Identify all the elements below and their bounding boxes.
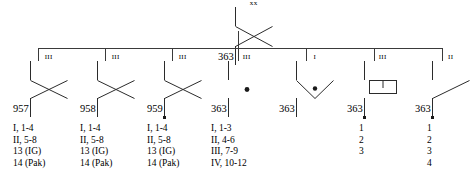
unit-363-engineer[interactable]: 363 I — [279, 62, 334, 117]
list-item: I, 1-3 — [211, 123, 247, 135]
unit-363-signals-echelon-label: III — [364, 54, 402, 61]
list-item: 14 (Pak) — [13, 158, 45, 170]
list-item: 2 — [359, 135, 364, 147]
unit-363-artillery-subordinate-list: I, 1-3 II, 4-6 III, 7-9 IV, 10-12 — [211, 123, 247, 169]
list-item: 4 — [427, 158, 432, 170]
unit-959-designation: 959 — [147, 104, 164, 117]
unit-363-artillery[interactable]: 363 III I, 1-3 II, 4-6 III, 7-9 IV, 10-1… — [211, 62, 266, 169]
org-chart: 363 xx 957 III — [0, 0, 467, 145]
list-item: 13 (IG) — [80, 146, 112, 158]
unit-958-designation: 958 — [80, 104, 97, 117]
unit-363-artillery-symbol-wrap: III — [228, 62, 266, 117]
unit-363-signals[interactable]: 363 III 1 2 3 — [347, 62, 402, 158]
unit-958-head: 958 III — [80, 62, 135, 117]
unit-959[interactable]: 959 III I, 1-4 II, 5-8 13 (IG) 14 (Pak) — [147, 62, 202, 169]
unit-363-supply-subordinate-list: 1 2 3 4 — [415, 123, 432, 169]
signals-symbol[interactable] — [364, 61, 402, 117]
unit-957-echelon-label: III — [30, 54, 68, 61]
infantry-cross-symbol[interactable] — [164, 61, 202, 117]
unit-363-supply-symbol-wrap: II — [432, 62, 470, 117]
engineer-chevron-dot-symbol[interactable] — [296, 61, 334, 117]
unit-959-head: 959 III — [147, 62, 202, 117]
supply-diagonal-symbol[interactable] — [432, 61, 470, 117]
list-item: 2 — [427, 135, 432, 147]
list-item: I, 1-4 — [80, 123, 112, 135]
list-item: I, 1-4 — [13, 123, 45, 135]
list-item: 1 — [359, 123, 364, 135]
unit-363-engineer-symbol-wrap: I — [296, 62, 334, 117]
list-item: 14 (Pak) — [147, 158, 179, 170]
connector-bus — [38, 48, 442, 49]
unit-363-engineer-echelon-label: I — [296, 54, 334, 61]
unit-363-artillery-head: 363 III — [211, 62, 266, 117]
unit-363-supply[interactable]: 363 II 1 2 3 4 — [415, 62, 470, 169]
unit-959-echelon-label: III — [164, 54, 202, 61]
artillery-dot-symbol[interactable] — [228, 61, 266, 117]
unit-363-signals-symbol-wrap: III — [364, 62, 402, 117]
unit-363-engineer-designation: 363 — [279, 104, 296, 117]
infantry-cross-symbol[interactable] — [97, 61, 135, 117]
list-item: II, 5-8 — [13, 135, 45, 147]
unit-363-supply-designation: 363 — [415, 104, 432, 117]
unit-959-symbol-wrap: III — [164, 62, 202, 117]
unit-959-subordinate-list: I, 1-4 II, 5-8 13 (IG) 14 (Pak) — [147, 123, 179, 169]
list-item: II, 4-6 — [211, 135, 247, 147]
motorized-dot-icon — [431, 116, 434, 119]
list-item: II, 5-8 — [147, 135, 179, 147]
unit-957-designation: 957 — [13, 104, 30, 117]
unit-363-signals-subordinate-list: 1 2 3 — [347, 123, 364, 158]
infantry-cross-symbol[interactable] — [30, 61, 68, 117]
unit-363-signals-head: 363 III — [347, 62, 402, 117]
list-item: 13 (IG) — [13, 146, 45, 158]
unit-958-symbol-wrap: III — [97, 62, 135, 117]
list-item: 3 — [427, 146, 432, 158]
unit-957-subordinate-list: I, 1-4 II, 5-8 13 (IG) 14 (Pak) — [13, 123, 45, 169]
list-item: III, 7-9 — [211, 146, 247, 158]
unit-363-signals-designation: 363 — [347, 104, 364, 117]
list-item: 14 (Pak) — [80, 158, 112, 170]
unit-958[interactable]: 958 III I, 1-4 II, 5-8 13 (IG) 14 (Pak) — [80, 62, 135, 169]
unit-958-echelon-label: III — [97, 54, 135, 61]
unit-363-engineer-head: 363 I — [279, 62, 334, 117]
unit-957[interactable]: 957 III I, 1-4 II, 5-8 13 (IG) 14 (Pak) — [13, 62, 68, 169]
unit-363-artillery-echelon-label: III — [228, 54, 266, 61]
unit-363-supply-echelon-label: II — [432, 54, 470, 61]
root-echelon-label: xx — [235, 0, 273, 7]
unit-958-subordinate-list: I, 1-4 II, 5-8 13 (IG) 14 (Pak) — [80, 123, 112, 169]
motorized-dot-icon — [163, 116, 166, 119]
list-item: II, 5-8 — [80, 135, 112, 147]
unit-957-head: 957 III — [13, 62, 68, 117]
unit-363-supply-head: 363 II — [415, 62, 470, 117]
motorized-dot-icon — [363, 116, 366, 119]
list-item: 1 — [427, 123, 432, 135]
list-item: 3 — [359, 146, 364, 158]
list-item: I, 1-4 — [147, 123, 179, 135]
list-item: IV, 10-12 — [211, 158, 247, 170]
unit-363-artillery-designation: 363 — [211, 104, 228, 117]
list-item: 13 (IG) — [147, 146, 179, 158]
connector-root-stem — [238, 31, 239, 48]
unit-957-symbol-wrap: III — [30, 62, 68, 117]
